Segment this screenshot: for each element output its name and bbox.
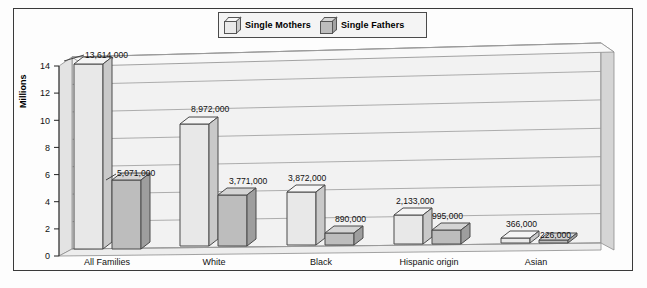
bar-all-families-single-mothers: [74, 57, 112, 249]
x-label-hispanic-origin: Hispanic origin: [399, 257, 458, 267]
value-label-hispanic-fathers: 995,000: [432, 211, 463, 221]
value-label-white-mothers: 8,972,000: [191, 104, 229, 114]
value-label-black-fathers: 890,000: [335, 214, 366, 224]
y-tick-10: 10: [40, 116, 50, 126]
bar-black-single-fathers: [325, 226, 363, 245]
x-label-asian: Asian: [525, 257, 548, 267]
plot-area: 14 12 10 8 6 4 2 0: [0, 0, 647, 288]
value-label-asian-fathers: 226,000: [540, 230, 571, 240]
y-tick-4: 4: [45, 197, 50, 207]
y-axis: [54, 66, 59, 256]
value-label-all-families-fathers: 5,071,000: [117, 168, 155, 178]
bar-white-single-mothers: [180, 117, 218, 246]
value-label-black-mothers: 3,872,000: [288, 173, 326, 183]
x-label-all-families: All Families: [84, 257, 131, 267]
value-label-white-fathers: 3,771,000: [229, 176, 267, 186]
y-tick-labels: 14 12 10 8 6 4 2 0: [40, 61, 50, 261]
bar-all-families-single-fathers: [112, 173, 150, 249]
y-tick-14: 14: [40, 61, 50, 71]
x-label-white: White: [202, 257, 225, 267]
y-tick-12: 12: [40, 88, 50, 98]
x-axis-labels: All Families White Black Hispanic origin…: [84, 257, 547, 267]
bar-white-single-fathers: [218, 188, 256, 246]
y-tick-6: 6: [45, 170, 50, 180]
bar-hispanic-single-fathers: [432, 223, 470, 244]
y-tick-8: 8: [45, 143, 50, 153]
value-label-asian-mothers: 366,000: [506, 219, 537, 229]
x-label-black: Black: [310, 257, 333, 267]
bar-hispanic-single-mothers: [394, 208, 432, 244]
y-tick-0: 0: [45, 251, 50, 261]
value-label-hispanic-mothers: 2,133,000: [396, 196, 434, 206]
chart-figure: Single Mothers Single Fathers Millions: [0, 0, 647, 288]
bar-black-single-mothers: [287, 185, 325, 245]
y-tick-2: 2: [45, 224, 50, 234]
value-label-all-families-mothers: 13,614,000: [85, 50, 128, 60]
